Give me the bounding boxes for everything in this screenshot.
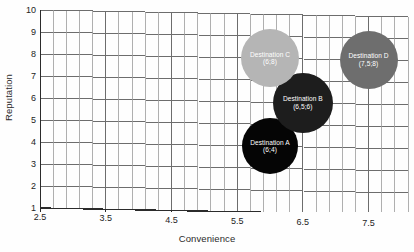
bubble-label: Destination B [283,95,323,103]
y-tick-label-2: 2 [16,182,36,191]
x-tick-label-7.5: 7.5 [352,219,386,228]
x-tick-label-6.5: 6.5 [286,218,320,227]
plot-area: Destination A(6;4)Destination B(6,5;6)De… [40,10,408,208]
x-tick-label-3.5: 3.5 [89,214,123,223]
y-tick-label-9: 9 [16,28,36,37]
bubble-coordinates: (6;4) [263,146,277,154]
y-tick-label-1: 1 [16,204,36,213]
bubble-coordinates: (6,5;6) [293,103,312,111]
bubble-coordinates: (6;8) [263,58,277,66]
y-tick-label-7: 7 [16,72,36,81]
bubble-chart: Reputation 12345678910 Destination A(6;4… [0,0,414,252]
x-tick-label-5.5: 5.5 [220,217,254,226]
x-axis-title: Convenience [0,233,414,244]
y-tick-label-5: 5 [16,116,36,125]
bubble-destination-c[interactable]: Destination C(6;8) [241,29,299,87]
y-tick-label-10: 10 [16,6,36,15]
x-tick-label-2.5: 2.5 [23,213,57,222]
y-tick-label-8: 8 [16,50,36,59]
x-tick-label-4.5: 4.5 [154,216,188,225]
bubble-label: Destination A [250,139,290,147]
x-axis-tick-labels: 2.53.54.55.56.57.5 [0,214,414,228]
bubble-coordinates: (7,5;8) [359,60,378,68]
y-tick-label-4: 4 [16,138,36,147]
y-tick-label-3: 3 [16,160,36,169]
bubble-label: Destination D [348,52,388,60]
y-tick-label-6: 6 [16,94,36,103]
bubble-label: Destination C [250,51,290,59]
bubble-destination-d[interactable]: Destination D(7,5;8) [340,31,398,89]
